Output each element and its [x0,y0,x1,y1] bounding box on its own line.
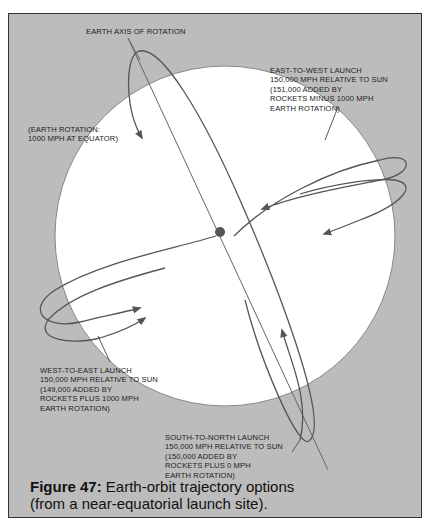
axis-label: EARTH AXIS OF ROTATION [86,27,186,36]
south-to-north-label: SOUTH-TO-NORTH LAUNCH 150,000 MPH RELATI… [165,433,283,480]
caption-line-1: Earth-orbit trajectory options [106,478,294,495]
west-to-east-label: WEST-TO-EAST LAUNCH 150,000 MPH RELATIVE… [40,366,158,413]
figure-number: Figure 47: [30,478,102,495]
earth-circle [55,66,395,406]
caption-line-2: (from a near-equatorial launch site). [30,495,294,512]
south-north-leader [292,440,300,452]
figure-caption: Figure 47: Earth-orbit trajectory option… [30,478,294,512]
launch-site-dot [215,227,225,237]
east-to-west-label: EAST-TO-WEST LAUNCH 150,000 MPH RELATIVE… [270,66,388,113]
rotation-label: (EARTH ROTATION: 1000 MPH AT EQUATOR) [28,125,118,144]
axis-leader [128,38,140,60]
